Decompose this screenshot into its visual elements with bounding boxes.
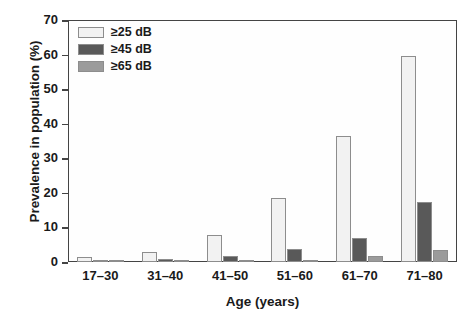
x-axis-tick-label: 41–50: [195, 268, 265, 283]
y-axis-tick-mark: [62, 262, 68, 264]
bar: [109, 260, 124, 262]
bar: [223, 256, 238, 262]
bar: [401, 56, 416, 262]
x-axis-tick-label: 31–40: [130, 268, 200, 283]
y-axis-tick-label: 30: [20, 150, 58, 165]
y-axis-tick-label: 50: [20, 81, 58, 96]
bar: [93, 260, 108, 262]
bar: [336, 136, 351, 262]
legend-swatch: [78, 61, 104, 72]
bar: [77, 257, 92, 262]
y-axis-tick-label: 10: [20, 219, 58, 234]
legend-item: ≥25 dB: [78, 25, 208, 39]
bar: [142, 252, 157, 262]
legend-item: ≥65 dB: [78, 59, 208, 73]
x-axis-tick-label: 61–70: [325, 268, 395, 283]
bar-group: [336, 20, 383, 262]
y-axis-tick-label: 20: [20, 185, 58, 200]
chart-legend: ≥25 dB≥45 dB≥65 dB: [78, 25, 208, 76]
y-axis-tick-label: 70: [20, 12, 58, 27]
legend-item: ≥45 dB: [78, 42, 208, 56]
bar: [207, 235, 222, 262]
x-axis-title: Age (years): [68, 294, 457, 309]
bar: [417, 202, 432, 263]
bar: [287, 249, 302, 262]
bar: [239, 260, 254, 262]
bar: [158, 259, 173, 262]
legend-swatch: [78, 27, 104, 38]
legend-label: ≥45 dB: [111, 42, 152, 56]
bar: [352, 238, 367, 262]
legend-swatch: [78, 44, 104, 55]
bar-group: [207, 20, 254, 262]
legend-label: ≥65 dB: [111, 59, 152, 73]
bar-group: [401, 20, 448, 262]
legend-label: ≥25 dB: [111, 25, 152, 39]
bar: [303, 260, 318, 262]
x-axis-tick-label: 17–30: [65, 268, 135, 283]
chart-figure: Prevalence in population (%) 01020304050…: [0, 0, 475, 320]
bar: [174, 260, 189, 262]
bar-group: [271, 20, 318, 262]
y-axis-tick-label: 0: [20, 254, 58, 269]
x-axis-tick-label: 51–60: [260, 268, 330, 283]
bar: [368, 256, 383, 262]
y-axis-tick-label: 60: [20, 47, 58, 62]
bar: [433, 250, 448, 262]
bar: [271, 198, 286, 262]
y-axis-tick-label: 40: [20, 116, 58, 131]
x-axis-tick-label: 71–80: [390, 268, 460, 283]
